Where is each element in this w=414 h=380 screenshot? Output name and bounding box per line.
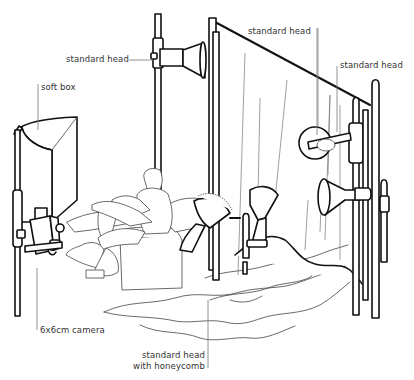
label-honeycomb-line2: with honeycomb [133,361,205,372]
label-camera: 6x6cm camera [40,325,105,336]
label-standard-head-top: standard head [248,26,311,37]
label-soft-box: soft box [41,82,76,93]
studio-lighting-diagram: standard head standard head standard hea… [0,0,414,380]
label-standard-head-left: standard head [66,54,129,65]
illustration-canvas [0,0,414,380]
standard-head-right-upper [299,127,351,159]
backdrop-curtain [209,18,370,284]
seated-subject [66,168,205,290]
label-standard-head-right: standard head [340,60,403,71]
label-honeycomb-line1: standard head [139,350,205,361]
